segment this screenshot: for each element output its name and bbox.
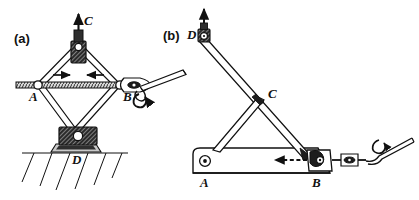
label-b-point-D: D bbox=[187, 27, 196, 43]
label-a-point-B: B bbox=[123, 89, 132, 105]
label-b-point-A: A bbox=[200, 175, 209, 191]
threaded-screw-rod bbox=[16, 82, 126, 88]
jack-mechanisms-figure bbox=[0, 0, 419, 200]
panel-b-identifier: (b) bbox=[163, 28, 180, 43]
label-b-point-B: B bbox=[312, 175, 321, 191]
nut-block-b bbox=[307, 150, 332, 171]
label-b-point-C: C bbox=[268, 86, 277, 102]
panel-a-identifier: (a) bbox=[14, 31, 30, 46]
pivot-block-d bbox=[59, 127, 97, 145]
pivot-a bbox=[34, 81, 42, 89]
label-a-point-D: D bbox=[72, 152, 81, 168]
label-a-point-A: A bbox=[29, 89, 38, 105]
label-a-point-C: C bbox=[84, 13, 93, 29]
